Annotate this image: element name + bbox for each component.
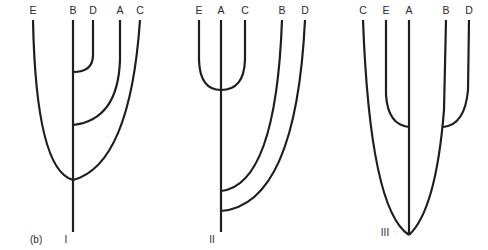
branch-D [443, 20, 469, 127]
tip-label-B: B [278, 4, 285, 16]
tree-III: C E A B D III [359, 4, 473, 238]
tip-label-E: E [382, 4, 389, 16]
tip-label-D: D [301, 4, 309, 16]
tip-label-B: B [69, 4, 76, 16]
tip-label-D: D [89, 4, 97, 16]
tree-label-III: III [381, 227, 389, 238]
tip-label-C: C [241, 4, 249, 16]
tip-label-B: B [442, 4, 449, 16]
branch-E [386, 20, 409, 127]
branch-B [221, 20, 282, 191]
phylogenetic-trees-figure: E B D A C (b) I E A C B D [0, 0, 488, 250]
tip-label-C: C [136, 4, 144, 16]
tree-label-II: II [209, 234, 215, 245]
tree-II: E A C B D II [195, 4, 309, 245]
tip-label-A: A [405, 4, 412, 16]
panel-label: (b) [30, 234, 42, 245]
branch-D [221, 20, 305, 211]
branch-E [33, 20, 73, 180]
tip-label-A: A [217, 4, 224, 16]
branch-D [73, 20, 93, 72]
tree-label-I: I [65, 234, 68, 245]
tip-label-E: E [195, 4, 202, 16]
tip-label-A: A [116, 4, 123, 16]
branch-A [73, 20, 120, 125]
tip-label-D: D [465, 4, 473, 16]
branch-E [199, 20, 221, 90]
branch-C [221, 20, 245, 90]
branch-C [73, 20, 140, 180]
tree-I: E B D A C (b) I [29, 4, 144, 245]
branch-B-stem [409, 20, 446, 235]
tip-label-E: E [29, 4, 36, 16]
tip-label-C: C [359, 4, 367, 16]
